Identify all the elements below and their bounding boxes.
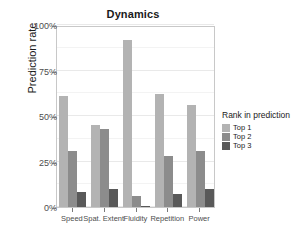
y-tick-mark (52, 26, 56, 27)
bar-group (57, 27, 89, 207)
bar (109, 189, 118, 207)
bar (187, 105, 196, 207)
bar-group (121, 27, 153, 207)
plot-panel (56, 26, 215, 208)
bars-layer (57, 27, 214, 207)
bar (132, 196, 141, 207)
y-tick-mark (52, 208, 56, 209)
bar (205, 189, 214, 207)
bar-group (89, 27, 121, 207)
x-tick-label: Fluidity (124, 214, 148, 223)
gridline-major (57, 24, 214, 25)
x-tick-label: Spat. Extent (83, 214, 124, 223)
bar (155, 94, 164, 207)
legend-swatch-icon (222, 124, 230, 132)
legend-item: Top 2 (222, 132, 302, 141)
x-tick-mark (104, 208, 105, 212)
legend-item: Top 1 (222, 123, 302, 132)
page-title: Dynamics (48, 8, 218, 20)
bar (141, 206, 150, 207)
y-tick-label: 25% (17, 158, 57, 168)
x-tick-label: Repetition (150, 214, 184, 223)
x-tick-mark (167, 208, 168, 212)
bar (196, 151, 205, 207)
bar (173, 194, 182, 207)
y-tick-mark (52, 163, 56, 164)
x-tick-mark (72, 208, 73, 212)
legend-swatch-icon (222, 133, 230, 141)
bar (91, 125, 100, 207)
y-tick-mark (52, 117, 56, 118)
legend-title: Rank in prediction (222, 110, 302, 120)
legend-item-label: Top 1 (233, 123, 251, 132)
legend-item-label: Top 3 (233, 141, 251, 150)
x-tick-label: Power (188, 214, 209, 223)
bar-group (184, 27, 216, 207)
y-tick-label: 100% (17, 21, 57, 31)
bar (59, 96, 68, 207)
y-tick-label: 50% (17, 112, 57, 122)
bar (77, 192, 86, 207)
legend-items: Top 1Top 2Top 3 (222, 123, 302, 150)
y-tick-label: 75% (17, 67, 57, 77)
bar (68, 151, 77, 207)
legend-item: Top 3 (222, 141, 302, 150)
bar (123, 40, 132, 207)
bar (100, 129, 109, 207)
legend-item-label: Top 2 (233, 132, 251, 141)
legend: Rank in prediction Top 1Top 2Top 3 (222, 110, 302, 150)
y-tick-label: 0% (17, 203, 57, 213)
bar-group (152, 27, 184, 207)
chart-figure: Dynamics Prediction rate Rank in predict… (0, 0, 303, 250)
x-tick-label: Speed (61, 214, 83, 223)
x-tick-mark (199, 208, 200, 212)
legend-swatch-icon (222, 142, 230, 150)
y-tick-mark (52, 72, 56, 73)
bar (164, 156, 173, 207)
x-tick-mark (136, 208, 137, 212)
